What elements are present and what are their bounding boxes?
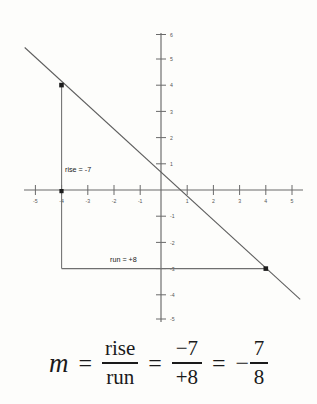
fraction-1-denominator: run [103,366,137,390]
origin-side-marker [59,189,63,193]
fraction-1-bar [102,362,138,364]
equation-variable-m: m [49,350,69,377]
minus-sign: − [235,351,249,375]
x-tick-label-5: 5 [291,198,294,204]
equals-sign-3: = [211,351,227,375]
fraction-neg7-over-plus8: −7 +8 [172,337,202,390]
fraction-2-denominator: +8 [173,366,201,390]
y-tick-label-neg2: -2 [170,240,175,246]
y-tick-label-4: 4 [170,82,173,88]
y-tick-label-5: 5 [170,56,173,62]
equation-row: m = rise run = −7 +8 = − 7 8 [49,337,268,390]
x-tick-label-4: 4 [264,198,267,204]
slope-illustration-page: -5 -4 -3 -2 -1 1 2 3 4 5 [0,0,317,404]
slope-equation: m = rise run = −7 +8 = − 7 8 [0,326,317,404]
run-label: run = +8 [110,255,137,264]
fraction-7-over-8: 7 8 [250,337,268,390]
x-tick-label-2: 2 [212,198,215,204]
y-tick-label-neg4: -4 [170,292,175,298]
point-marker-b [264,266,269,271]
y-tick-label-6: 6 [170,32,173,38]
fraction-3-denominator: 8 [251,366,268,390]
x-tick-label-neg1: -1 [138,198,143,204]
fraction-1-numerator: rise [102,337,138,361]
equals-sign-2: = [147,351,163,375]
coordinate-graph: -5 -4 -3 -2 -1 1 2 3 4 5 [0,0,317,330]
fraction-2-numerator: −7 [173,337,201,361]
fraction-3-numerator: 7 [251,337,268,361]
fraction-rise-over-run: rise run [102,337,138,390]
fraction-3-bar [250,362,268,364]
y-tick-label-3: 3 [170,109,173,115]
point-marker-a [59,83,64,88]
x-tick-label-1: 1 [186,198,189,204]
equals-sign-1: = [77,351,93,375]
y-tick-label-neg1: -1 [170,213,175,219]
y-tick-label-1: 1 [170,161,173,167]
x-tick-label-3: 3 [238,198,241,204]
graph-svg: -5 -4 -3 -2 -1 1 2 3 4 5 [0,0,317,330]
negative-fraction-group: − 7 8 [235,337,268,390]
x-tick-label-neg3: -3 [85,198,90,204]
x-tick-label-neg2: -2 [112,198,117,204]
x-tick-label-neg5: -5 [33,198,38,204]
y-tick-label-neg5: -5 [170,316,175,322]
rise-label: rise = -7 [65,165,91,174]
y-tick-label-2: 2 [170,135,173,141]
fraction-2-bar [172,362,202,364]
